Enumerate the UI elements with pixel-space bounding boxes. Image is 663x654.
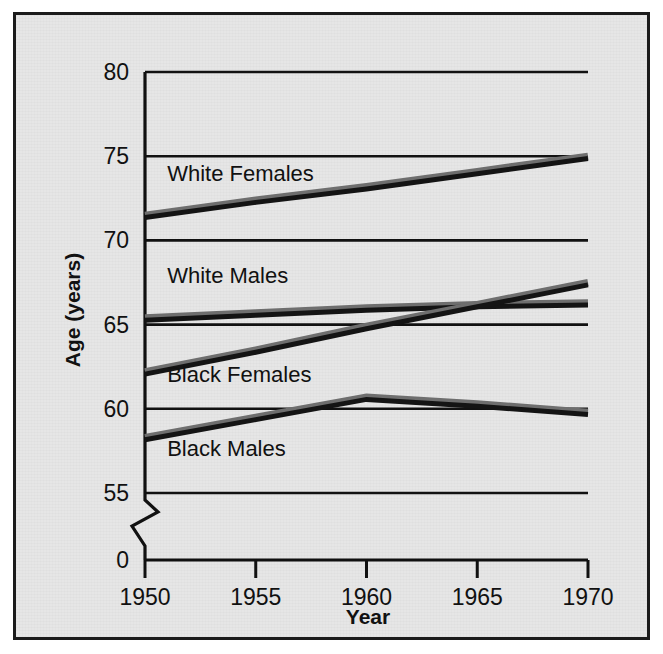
y-tick-labels-group: 0556065707580 (103, 59, 129, 573)
y-tick-label-55: 55 (103, 480, 129, 506)
series-label-black-males: Black Males (167, 436, 286, 461)
series-label-white-females: White Females (167, 161, 314, 186)
series-label-black-females: Black Females (167, 362, 311, 387)
x-axis-title: Year (346, 605, 390, 628)
series-black-males (145, 397, 588, 440)
x-tick-label-1965: 1965 (452, 584, 503, 610)
x-tick-marks-group (145, 560, 588, 578)
plot-area: 0556065707580 19501955196019651970 White… (0, 0, 663, 654)
series-line-highlight (145, 397, 588, 437)
y-tick-label-65: 65 (103, 312, 129, 338)
series-black-females (145, 283, 588, 375)
y-tick-label-70: 70 (103, 227, 129, 253)
x-tick-label-1950: 1950 (119, 584, 170, 610)
series-label-white-males: White Males (167, 263, 288, 288)
y-tick-label-80: 80 (103, 59, 129, 85)
y-tick-label-75: 75 (103, 143, 129, 169)
series-white-males (145, 303, 588, 321)
series-lines-group (145, 156, 588, 440)
y-axis-title: Age (years) (61, 253, 84, 367)
x-tick-label-1955: 1955 (230, 584, 281, 610)
y-tick-label-60: 60 (103, 396, 129, 422)
x-tick-label-1970: 1970 (562, 584, 613, 610)
chart-page: 0556065707580 19501955196019651970 White… (0, 0, 663, 654)
series-line-core (145, 285, 588, 374)
line-chart-svg: 0556065707580 19501955196019651970 White… (0, 0, 663, 654)
y-tick-label-0: 0 (116, 547, 129, 573)
